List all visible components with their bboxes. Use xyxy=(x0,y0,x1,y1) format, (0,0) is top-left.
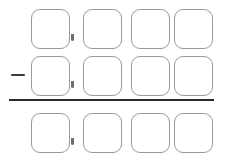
minuend-tens-box[interactable] xyxy=(131,9,170,49)
minuend-row: , xyxy=(0,8,226,50)
place-value-tick-icon: , xyxy=(71,81,74,88)
minuend-thousands-box[interactable] xyxy=(31,9,70,49)
answer-tens-box[interactable] xyxy=(131,113,170,153)
answer-thousands-box[interactable] xyxy=(31,113,70,153)
minus-sign-icon: − xyxy=(11,74,25,76)
subtrahend-operator-slot: − xyxy=(0,55,30,97)
minuend-operator-slot xyxy=(0,8,30,50)
subtraction-worksheet: , − , , xyxy=(0,0,226,159)
answer-hundreds-box[interactable] xyxy=(83,113,122,153)
place-value-tick-icon: , xyxy=(71,138,74,145)
minuend-ones-box[interactable] xyxy=(174,9,213,49)
subtrahend-ones-box[interactable] xyxy=(174,56,213,96)
subtrahend-hundreds-box[interactable] xyxy=(83,56,122,96)
subtrahend-thousands-box[interactable] xyxy=(31,56,70,96)
answer-row: , xyxy=(0,112,226,154)
subtrahend-row: − , xyxy=(0,55,226,97)
answer-operator-slot xyxy=(0,112,30,154)
answer-rule xyxy=(9,99,214,101)
place-value-tick-icon: , xyxy=(71,34,74,41)
subtrahend-tens-box[interactable] xyxy=(131,56,170,96)
minuend-hundreds-box[interactable] xyxy=(83,9,122,49)
answer-ones-box[interactable] xyxy=(174,113,213,153)
